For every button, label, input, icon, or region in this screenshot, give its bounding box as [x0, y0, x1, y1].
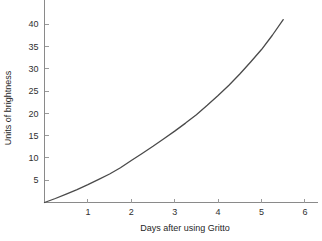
x-axis-title: Days after using Gritto: [140, 223, 230, 233]
data-curve: [45, 20, 284, 203]
y-tick-label: 30: [28, 64, 38, 74]
x-tick-label: 5: [259, 207, 264, 217]
line-chart: 510152025303540 123456 Days after using …: [0, 0, 322, 241]
y-tick-label: 40: [28, 19, 38, 29]
y-tick-label: 35: [28, 42, 38, 52]
y-tick-label: 10: [28, 153, 38, 163]
y-tick-group: 510152025303540: [28, 19, 48, 185]
x-tick-label: 1: [85, 207, 90, 217]
chart-container: 510152025303540 123456 Days after using …: [0, 0, 322, 241]
y-tick-label: 15: [28, 131, 38, 141]
x-tick-label: 2: [129, 207, 134, 217]
x-tick-label: 3: [172, 207, 177, 217]
x-tick-group: 123456: [85, 199, 307, 217]
y-axis-title: Units of brightness: [3, 70, 13, 145]
y-tick-label: 5: [33, 175, 38, 185]
x-tick-label: 6: [302, 207, 307, 217]
y-tick-label: 20: [28, 109, 38, 119]
x-tick-label: 4: [216, 207, 221, 217]
y-tick-label: 25: [28, 86, 38, 96]
